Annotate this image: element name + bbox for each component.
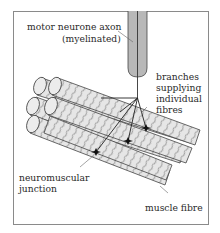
axon-label-line1: motor neurone axon: [27, 22, 121, 33]
motor-neurone-axon: [128, 11, 147, 98]
branches-label-line4: fibres: [156, 105, 183, 116]
branches-label-line1: branches: [156, 72, 199, 83]
muscle-fibre-label: muscle fibre: [145, 203, 203, 214]
junction-label-line1: neuromuscular: [19, 173, 89, 184]
axon-label-line2: (myelinated): [62, 34, 121, 45]
branches-label-line2: supplying: [156, 83, 201, 94]
branches-label-line3: individual: [156, 94, 202, 105]
junction-label-line2: junction: [19, 184, 57, 195]
